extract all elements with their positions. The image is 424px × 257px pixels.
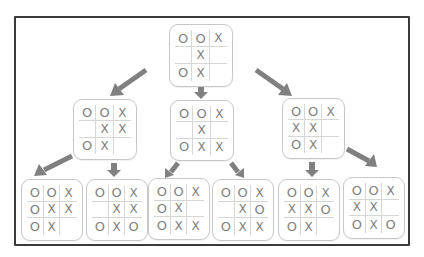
arrow-down-right-icon — [228, 161, 246, 179]
arrow-down-right-icon — [345, 146, 379, 170]
board-cell: X — [125, 185, 142, 202]
board-cell: O — [301, 185, 318, 202]
board-cell — [317, 218, 334, 235]
arrow-down-left-icon — [163, 161, 181, 179]
board-cell: O — [44, 185, 61, 202]
board-cell: X — [284, 202, 301, 219]
board-cell: O — [27, 218, 44, 235]
board-cell: X — [44, 202, 61, 219]
board-cell: O — [176, 106, 193, 122]
board-cell: O — [175, 64, 192, 81]
board-cell: O — [92, 218, 109, 235]
board-cell: X — [114, 121, 131, 137]
board-cell — [210, 64, 227, 81]
board-cell: O — [235, 185, 252, 202]
board-cell: X — [60, 202, 77, 219]
board-cell — [114, 138, 131, 154]
board-cell: O — [154, 217, 171, 234]
board-grid: OOXXXOOX — [284, 185, 334, 235]
board-leaf-5: OOXXXOOX — [278, 179, 340, 241]
board-cell: O — [366, 183, 383, 200]
board-grid: OOXXXOX — [288, 104, 339, 153]
board-cell: X — [96, 138, 113, 154]
board-cell: O — [192, 30, 209, 47]
board-l2-middle: OOXXOXX — [170, 100, 234, 161]
board-cell: X — [44, 218, 61, 235]
board-cell: X — [349, 200, 366, 217]
board-cell: O — [109, 185, 126, 202]
arrow-down-left-icon — [32, 153, 74, 179]
board-cell: O — [176, 139, 193, 155]
board-grid: OOXXXOXO — [349, 183, 399, 233]
board-cell: X — [301, 202, 318, 219]
board-cell: O — [284, 185, 301, 202]
board-cell: O — [154, 201, 171, 218]
board-leaf-3: OOXOXOXX — [148, 178, 210, 240]
board-cell — [187, 201, 204, 218]
board-grid: OOXXXOX — [79, 105, 131, 154]
board-cell: O — [125, 218, 142, 235]
board-cell: O — [92, 185, 109, 202]
board-leaf-2: OOXXXOXO — [86, 179, 148, 241]
board-cell: X — [60, 185, 77, 202]
arrow-down-icon — [305, 162, 319, 178]
board-cell: X — [109, 202, 126, 219]
board-cell — [382, 200, 399, 217]
board-cell — [92, 202, 109, 219]
board-grid: OOXXOXX — [176, 106, 228, 155]
board-cell: X — [235, 202, 252, 219]
board-cell: O — [284, 218, 301, 235]
board-cell: O — [27, 202, 44, 219]
board-cell: O — [79, 105, 96, 121]
board-grid: OOXXOX — [175, 30, 227, 81]
board-cell: O — [317, 202, 334, 219]
board-cell: X — [187, 184, 204, 201]
board-cell: O — [382, 216, 399, 233]
arrow-down-icon — [194, 87, 208, 100]
board-cell: X — [125, 202, 142, 219]
board-leaf-1: OOXOXXOX — [21, 179, 83, 241]
board-cell: X — [305, 137, 322, 153]
board-cell: X — [171, 217, 188, 234]
board-cell: O — [349, 216, 366, 233]
board-cell — [79, 121, 96, 137]
board-cell: X — [251, 185, 268, 202]
board-cell: X — [211, 106, 228, 122]
board-cell: X — [96, 121, 113, 137]
board-cell — [218, 202, 235, 219]
board-cell: X — [305, 120, 322, 136]
board-cell: X — [317, 185, 334, 202]
arrow-down-icon — [107, 163, 121, 178]
board-cell: X — [109, 218, 126, 235]
board-grid: OOXOXOXX — [154, 184, 204, 234]
board-cell: X — [366, 216, 383, 233]
board-root: OOXXOX — [169, 24, 233, 87]
board-cell — [60, 218, 77, 235]
board-cell: X — [192, 47, 209, 64]
board-cell: X — [211, 139, 228, 155]
board-cell — [322, 120, 339, 136]
board-cell: O — [171, 184, 188, 201]
board-cell: X — [322, 104, 339, 120]
board-cell: O — [193, 106, 210, 122]
board-cell: X — [193, 122, 210, 138]
board-cell: O — [79, 138, 96, 154]
board-cell: X — [366, 200, 383, 217]
board-cell: O — [288, 137, 305, 153]
board-cell: X — [288, 120, 305, 136]
board-cell: X — [193, 139, 210, 155]
board-l2-left: OOXXXOX — [73, 99, 137, 160]
board-cell: O — [349, 183, 366, 200]
board-grid: OOXXXOXO — [92, 185, 142, 235]
arrow-down-right-icon — [252, 66, 294, 100]
board-cell: O — [305, 104, 322, 120]
board-leaf-4: OOXXOOXX — [212, 179, 274, 241]
board-cell: X — [301, 218, 318, 235]
board-cell: X — [210, 30, 227, 47]
board-cell: X — [251, 218, 268, 235]
board-cell: O — [218, 218, 235, 235]
board-cell — [322, 137, 339, 153]
board-cell: O — [175, 30, 192, 47]
board-cell: X — [192, 64, 209, 81]
board-grid: OOXXOOXX — [218, 185, 268, 235]
